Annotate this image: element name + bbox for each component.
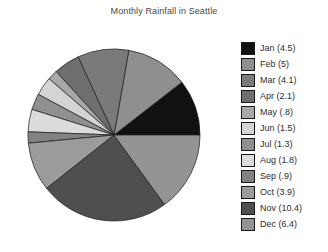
legend-label-feb: Feb (5) — [260, 60, 289, 69]
legend-item-sep: Sep (.9) — [241, 168, 327, 184]
legend-label-oct: Oct (3.9) — [260, 188, 295, 197]
legend-item-may: May (.8) — [241, 104, 327, 120]
legend-swatch-jul — [241, 138, 255, 151]
pie-svg — [27, 48, 201, 222]
legend-item-apr: Apr (2.1) — [241, 88, 327, 104]
chart-legend: Jan (4.5)Feb (5)Mar (4.1)Apr (2.1)May (.… — [241, 40, 327, 232]
legend-swatch-feb — [241, 58, 255, 71]
legend-label-apr: Apr (2.1) — [260, 92, 295, 101]
legend-swatch-sep — [241, 170, 255, 183]
legend-item-mar: Mar (4.1) — [241, 72, 327, 88]
legend-item-feb: Feb (5) — [241, 56, 327, 72]
legend-label-dec: Dec (6.4) — [260, 220, 297, 229]
legend-label-jun: Jun (1.5) — [260, 124, 296, 133]
legend-item-jan: Jan (4.5) — [241, 40, 327, 56]
legend-swatch-oct — [241, 186, 255, 199]
legend-item-jun: Jun (1.5) — [241, 120, 327, 136]
legend-swatch-may — [241, 106, 255, 119]
legend-item-aug: Aug (1.8) — [241, 152, 327, 168]
pie-plot-area — [27, 48, 201, 222]
legend-label-nov: Nov (10.4) — [260, 204, 302, 213]
legend-label-may: May (.8) — [260, 108, 293, 117]
legend-label-sep: Sep (.9) — [260, 172, 292, 181]
legend-swatch-mar — [241, 74, 255, 87]
legend-swatch-apr — [241, 90, 255, 103]
legend-swatch-jun — [241, 122, 255, 135]
legend-item-dec: Dec (6.4) — [241, 216, 327, 232]
legend-label-jan: Jan (4.5) — [260, 44, 296, 53]
legend-swatch-jan — [241, 42, 255, 55]
legend-item-oct: Oct (3.9) — [241, 184, 327, 200]
legend-label-mar: Mar (4.1) — [260, 76, 297, 85]
legend-item-nov: Nov (10.4) — [241, 200, 327, 216]
legend-label-jul: Jul (1.3) — [260, 140, 293, 149]
legend-swatch-dec — [241, 218, 255, 231]
legend-swatch-nov — [241, 202, 255, 215]
legend-item-jul: Jul (1.3) — [241, 136, 327, 152]
legend-swatch-aug — [241, 154, 255, 167]
chart-title: Monthly Rainfall in Seattle — [0, 6, 328, 16]
legend-label-aug: Aug (1.8) — [260, 156, 297, 165]
pie-chart-figure: Monthly Rainfall in Seattle Jan (4.5)Feb… — [0, 0, 328, 252]
